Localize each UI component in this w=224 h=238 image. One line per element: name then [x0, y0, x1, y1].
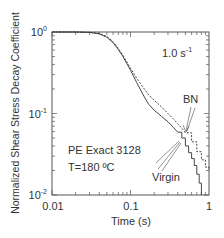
y-tick-label-1: 10-1	[29, 107, 48, 120]
bn-pointer-arrows	[183, 107, 195, 132]
material-annotation: PE Exact 3128	[68, 144, 141, 156]
x-tick-label-0: 0.01	[42, 200, 63, 212]
chart: 100 10-1 10-2 0.01 0.1 1 Time (s) Normal…	[0, 0, 224, 238]
y-tick-label-0: 100	[31, 25, 47, 38]
x-axis-label: Time (s)	[111, 215, 151, 227]
virgin-pointer-arrows	[156, 141, 181, 171]
x-tick-label-2: 1	[206, 200, 212, 212]
x-tick-label-1: 0.1	[123, 200, 138, 212]
virgin-series-label: Virgin	[152, 171, 180, 183]
shear-rate-annotation: 1.0 s-1	[162, 46, 192, 59]
y-axis-label: Normalized Shear Stress Decay Coefficien…	[9, 12, 21, 214]
temperature-annotation: T=180 ºC	[68, 161, 115, 173]
bn-series-label: BN	[183, 93, 198, 105]
